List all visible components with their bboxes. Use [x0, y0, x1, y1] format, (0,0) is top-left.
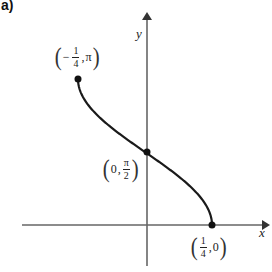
label-left-end: ( − 1 4 , π ) [54, 44, 100, 70]
minus-sign: − [63, 50, 70, 65]
y-value: 0 [213, 240, 219, 255]
y-axis-label: y [136, 26, 142, 42]
label-right-end: ( 1 4 , 0 ) [190, 234, 227, 260]
y-value: π [85, 50, 91, 65]
numerator: 1 [200, 236, 207, 248]
part-label: a) [1, 0, 13, 13]
close-paren: ) [220, 234, 227, 260]
point-left-end [75, 76, 82, 83]
numerator: 1 [72, 46, 79, 58]
denominator: 2 [124, 170, 129, 181]
comma: , [118, 162, 121, 177]
close-paren: ) [132, 156, 139, 182]
numerator: π [123, 158, 130, 170]
open-paren: ( [191, 234, 198, 260]
denominator: 4 [73, 58, 78, 69]
comma: , [209, 240, 212, 255]
point-y-intercept [144, 149, 151, 156]
point-right-end [209, 222, 216, 229]
fraction: π 2 [123, 158, 130, 181]
function-graph: a) y x ( − 1 4 , π ) ( 0 , π 2 ) ( 1 4 ,… [0, 0, 272, 272]
fraction: 1 4 [200, 236, 207, 259]
x-axis-label: x [259, 225, 265, 241]
denominator: 4 [201, 248, 206, 259]
label-y-intercept: ( 0 , π 2 ) [102, 156, 139, 182]
open-paren: ( [55, 44, 62, 70]
close-paren: ) [92, 44, 99, 70]
open-paren: ( [103, 156, 110, 182]
fraction: 1 4 [72, 46, 79, 69]
comma: , [81, 50, 84, 65]
x-value: 0 [111, 162, 117, 177]
